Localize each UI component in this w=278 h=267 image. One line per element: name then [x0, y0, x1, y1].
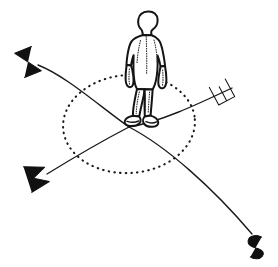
axis-segment-south — [129, 127, 252, 234]
label-south: S — [195, 235, 265, 267]
compass-illustration: N E W S — [0, 0, 278, 267]
human-figure — [125, 11, 167, 126]
west-letter-stroke — [23, 161, 50, 193]
figure-leg-left — [133, 89, 145, 117]
south-letter-stroke — [247, 235, 264, 260]
label-east: E — [209, 79, 258, 149]
label-west: W — [23, 161, 65, 237]
west-south-axis — [47, 127, 252, 234]
axis-segment-north — [38, 65, 129, 127]
compass-diagram-canvas: N E W S — [0, 0, 278, 267]
figure-head — [138, 11, 157, 35]
axis-segment-west — [47, 127, 129, 174]
north-letter-stroke — [15, 47, 41, 78]
east-letter-stroke — [209, 79, 234, 105]
label-north: N — [15, 47, 59, 121]
